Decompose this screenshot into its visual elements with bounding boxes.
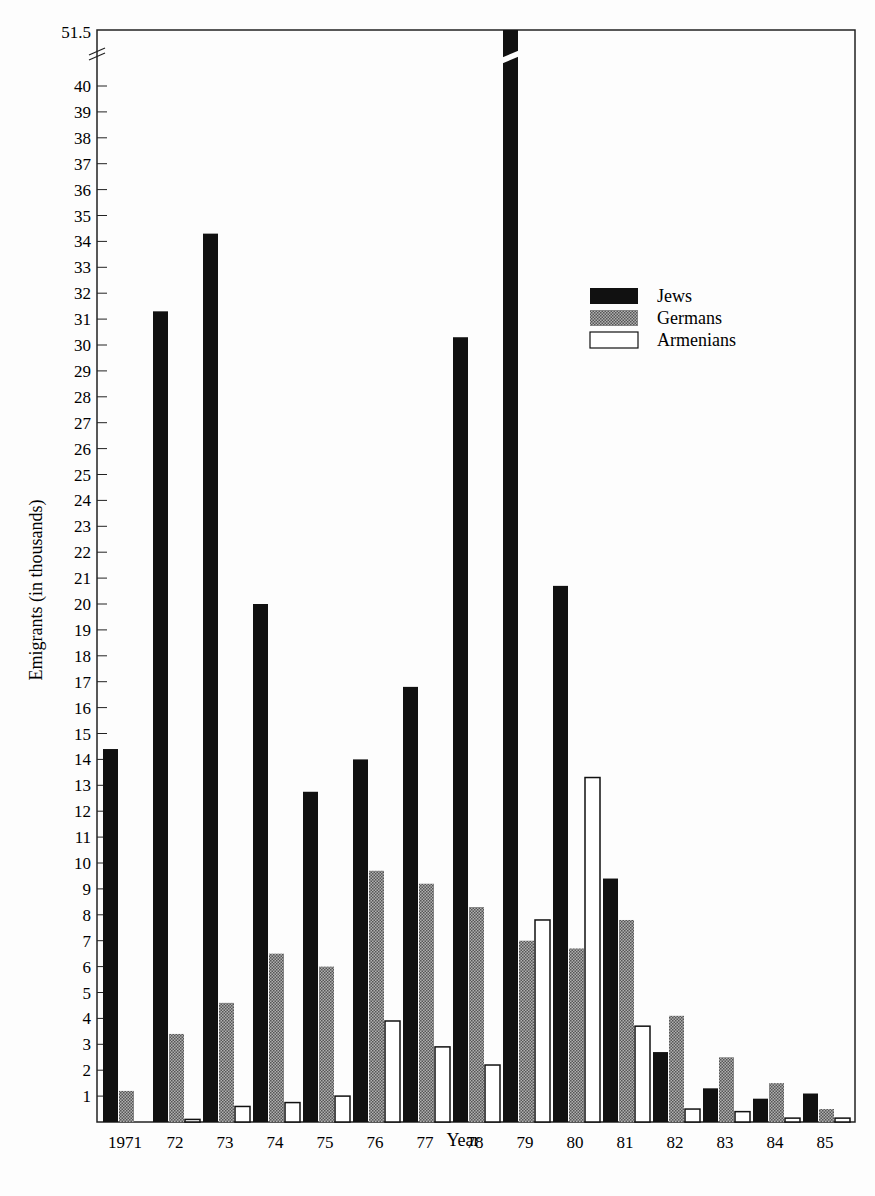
bar-germans — [169, 1034, 184, 1122]
bar-armenians — [385, 1021, 400, 1122]
bar-armenians — [735, 1112, 750, 1122]
y-tick-label-top: 51.5 — [61, 23, 91, 42]
bar-jews — [103, 749, 118, 1122]
y-axis-title: Emigrants (in thousands) — [26, 500, 47, 681]
bar-armenians — [835, 1118, 850, 1122]
y-tick-label: 3 — [83, 1035, 92, 1054]
x-tick-label: 80 — [567, 1133, 584, 1152]
y-tick-label: 18 — [74, 647, 91, 666]
y-tick-label: 13 — [74, 776, 91, 795]
y-tick-label: 29 — [74, 362, 91, 381]
bar-jews — [803, 1094, 818, 1122]
y-tick-label: 6 — [83, 958, 92, 977]
y-tick-label: 40 — [74, 77, 91, 96]
bar-germans — [569, 948, 584, 1122]
bar-germans — [819, 1109, 834, 1122]
bar-armenians — [585, 778, 600, 1122]
bar-germans — [669, 1016, 684, 1122]
bar-germans — [319, 967, 334, 1122]
bar-jews — [203, 234, 218, 1122]
bar-germans — [519, 941, 534, 1122]
bar-germans — [119, 1091, 134, 1122]
bar-jews — [303, 792, 318, 1122]
x-tick-label: 84 — [767, 1133, 785, 1152]
y-tick-label: 12 — [74, 802, 91, 821]
y-tick-label: 36 — [74, 181, 91, 200]
legend-label: Germans — [657, 308, 722, 328]
bar-germans — [419, 884, 434, 1122]
chart-canvas: 1234567891011121314151617181920212223242… — [0, 0, 875, 1196]
x-tick-label: 73 — [217, 1133, 234, 1152]
y-tick-label: 24 — [74, 491, 92, 510]
y-tick-label: 2 — [83, 1061, 92, 1080]
legend-swatch-jews — [590, 288, 638, 304]
y-tick-label: 27 — [74, 414, 92, 433]
y-tick-label: 7 — [83, 932, 92, 951]
bar-armenians — [285, 1103, 300, 1122]
y-tick-label: 8 — [83, 906, 92, 925]
bar-germans — [769, 1083, 784, 1122]
bar-jews — [503, 30, 518, 1122]
y-tick-label: 11 — [75, 828, 91, 847]
y-tick-label: 15 — [74, 725, 91, 744]
bar-armenians — [185, 1119, 200, 1122]
y-tick-label: 22 — [74, 543, 91, 562]
bar-jews — [453, 337, 468, 1122]
y-tick-label: 5 — [83, 984, 92, 1003]
x-tick-label: 72 — [167, 1133, 184, 1152]
y-tick-label: 19 — [74, 621, 91, 640]
bar-armenians — [635, 1026, 650, 1122]
x-tick-label: 77 — [417, 1133, 435, 1152]
y-tick-label: 38 — [74, 129, 91, 148]
x-tick-label: 83 — [717, 1133, 734, 1152]
x-tick-label: 82 — [667, 1133, 684, 1152]
y-tick-label: 26 — [74, 440, 91, 459]
bar-jews — [353, 759, 368, 1122]
bar-germans — [469, 907, 484, 1122]
x-tick-label: 76 — [367, 1133, 384, 1152]
bar-jews — [403, 687, 418, 1122]
y-tick-label: 33 — [74, 258, 91, 277]
y-tick-label: 31 — [74, 310, 91, 329]
y-axis: 1234567891011121314151617181920212223242… — [61, 23, 107, 1106]
bar-germans — [219, 1003, 234, 1122]
bar-jews — [703, 1088, 718, 1122]
bar-germans — [719, 1057, 734, 1122]
bar-armenians — [485, 1065, 500, 1122]
y-tick-label: 21 — [74, 569, 91, 588]
x-tick-label: 79 — [517, 1133, 534, 1152]
bar-germans — [269, 954, 284, 1122]
legend-swatch-armenians — [590, 332, 638, 348]
y-tick-label: 34 — [74, 232, 92, 251]
bar-jews — [653, 1052, 668, 1122]
y-tick-label: 14 — [74, 750, 92, 769]
y-tick-label: 25 — [74, 466, 91, 485]
bar-jews — [753, 1099, 768, 1122]
bar-armenians — [685, 1109, 700, 1122]
bar-armenians — [785, 1118, 800, 1122]
x-axis-title: Year — [446, 1130, 479, 1150]
y-tick-label: 30 — [74, 336, 91, 355]
y-tick-label: 39 — [74, 103, 91, 122]
bars — [103, 30, 850, 1122]
bar-jews — [553, 586, 568, 1122]
x-tick-label: 75 — [317, 1133, 334, 1152]
y-tick-label: 9 — [83, 880, 92, 899]
legend-label: Jews — [657, 286, 692, 306]
bar-jews — [253, 604, 268, 1122]
x-tick-label: 81 — [617, 1133, 634, 1152]
y-tick-label: 35 — [74, 207, 91, 226]
legend: JewsGermansArmenians — [590, 286, 736, 350]
bar-jews — [153, 311, 168, 1122]
y-tick-label: 20 — [74, 595, 91, 614]
y-tick-label: 1 — [83, 1087, 92, 1106]
y-tick-label: 23 — [74, 517, 91, 536]
bar-jews — [603, 879, 618, 1122]
y-tick-label: 37 — [74, 155, 92, 174]
x-tick-label: 85 — [817, 1133, 834, 1152]
legend-swatch-germans — [590, 310, 638, 326]
bar-armenians — [235, 1106, 250, 1122]
bar-germans — [619, 920, 634, 1122]
bar-armenians — [435, 1047, 450, 1122]
bar-germans — [369, 871, 384, 1122]
